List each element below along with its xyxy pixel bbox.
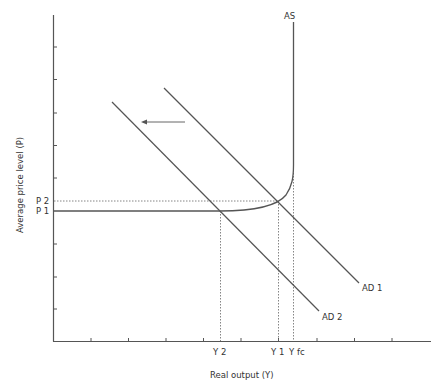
shift-arrow — [141, 120, 185, 125]
ad2-label: AD 2 — [322, 312, 342, 322]
y1-label: Y 1 — [270, 347, 284, 357]
x-axis-title: Real output (Y) — [210, 370, 274, 380]
arrowhead-left-icon — [141, 120, 147, 125]
as-label: AS — [284, 11, 295, 21]
ad2-curve — [112, 102, 319, 311]
as-curve — [54, 22, 294, 211]
y2-label: Y 2 — [212, 347, 226, 357]
y-axis-title: Average price level (P) — [15, 137, 25, 233]
p2-label: P 2 — [36, 196, 49, 206]
p1-label: P 1 — [36, 206, 49, 216]
guide-lines — [54, 170, 294, 341]
ad-as-diagram: AS AD 1 AD 2 P 2 P 1 Y 2 Y 1 Y fc Real o… — [0, 0, 440, 386]
yfc-label: Y fc — [288, 347, 305, 357]
ad1-label: AD 1 — [362, 283, 382, 293]
